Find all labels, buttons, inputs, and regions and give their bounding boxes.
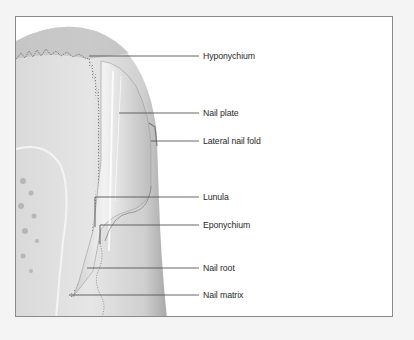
label-eponychium: Eponychium xyxy=(203,219,250,230)
label-lunula: Lunula xyxy=(203,191,229,202)
label-lateral-nail-fold: Lateral nail fold xyxy=(203,135,261,146)
label-nail-plate: Nail plate xyxy=(203,107,239,118)
label-hyponychium: Hyponychium xyxy=(203,50,255,61)
label-nail-matrix: Nail matrix xyxy=(203,289,243,300)
label-nail-root: Nail root xyxy=(203,262,235,273)
